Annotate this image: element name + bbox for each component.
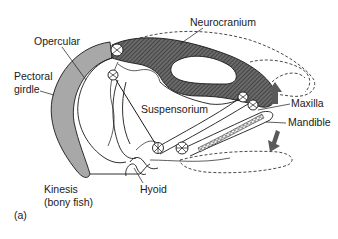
panel-label: (a) bbox=[14, 209, 27, 221]
label-opercular: Opercular bbox=[34, 35, 81, 47]
opercular-outline bbox=[78, 58, 160, 174]
label-suspensorium: Suspensorium bbox=[141, 103, 208, 115]
leader-neurocranium bbox=[180, 28, 203, 44]
leader-hyoid bbox=[134, 168, 143, 183]
caption-title: Kinesis bbox=[44, 183, 78, 195]
leader-mandible bbox=[266, 122, 286, 123]
leader-pectoral-girdle bbox=[40, 91, 54, 95]
label-neurocranium: Neurocranium bbox=[190, 16, 256, 28]
label-maxilla: Maxilla bbox=[291, 97, 324, 109]
joint-opercular-suspensorium bbox=[108, 70, 118, 80]
downward-arrow-icon bbox=[268, 130, 280, 152]
joint-mandible-quadrate bbox=[176, 142, 188, 154]
label-pectoral-line1: Pectoral bbox=[14, 70, 53, 82]
joint-maxilla-tip bbox=[248, 100, 258, 110]
mandible-shape bbox=[180, 111, 273, 156]
mandible-displaced-outline bbox=[180, 151, 292, 172]
fish-skull-kinesis-diagram: Neurocranium Opercular Pectoral girdle S… bbox=[0, 0, 338, 239]
caption-subtitle: (bony fish) bbox=[44, 196, 93, 208]
label-mandible: Mandible bbox=[288, 116, 331, 128]
label-hyoid: Hyoid bbox=[140, 183, 167, 195]
joint-maxilla-neurocranium bbox=[238, 92, 248, 102]
joint-hyoid bbox=[153, 143, 164, 154]
label-pectoral-line2: girdle bbox=[14, 83, 40, 95]
joint-opercular-neurocranium bbox=[111, 44, 123, 56]
